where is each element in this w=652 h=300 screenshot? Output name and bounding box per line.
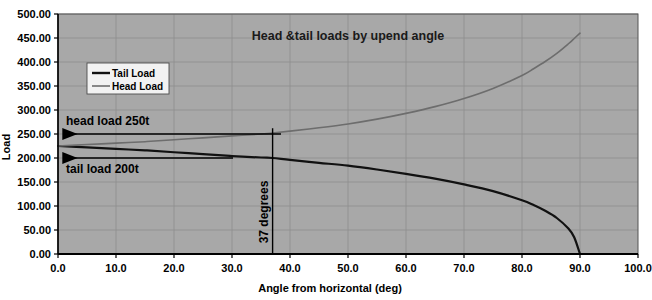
x-tick-label: 0.0: [50, 262, 65, 274]
chart-title: Head &tail loads by upend angle: [252, 29, 444, 43]
y-tick-label: 300.00: [17, 104, 51, 116]
chart-container: 37 degrees 0.010.020.030.040.050.060.070…: [0, 0, 652, 300]
y-tick-label: 400.00: [17, 56, 51, 68]
x-tick-label: 100.0: [624, 262, 652, 274]
x-tick-label: 90.0: [569, 262, 590, 274]
y-tick-label: 450.00: [17, 32, 51, 44]
x-tick-label: 80.0: [511, 262, 532, 274]
x-axis-title: Angle from horizontal (deg): [258, 282, 402, 294]
vertical-marker-label: 37 degrees: [257, 180, 271, 243]
x-tick-label: 30.0: [221, 262, 242, 274]
tail-load-annotation-label: tail load 200t: [66, 162, 139, 176]
x-tick-label: 60.0: [395, 262, 416, 274]
y-tick-label: 50.00: [23, 224, 51, 236]
y-tick-label: 500.00: [17, 8, 51, 20]
x-tick-label: 10.0: [105, 262, 126, 274]
x-tick-label: 70.0: [453, 262, 474, 274]
y-tick-label: 200.00: [17, 152, 51, 164]
y-tick-label: 100.00: [17, 200, 51, 212]
y-tick-label: 250.00: [17, 128, 51, 140]
load-vs-angle-chart: 37 degrees 0.010.020.030.040.050.060.070…: [0, 0, 652, 300]
y-tick-label: 350.00: [17, 80, 51, 92]
chart-legend: Tail LoadHead Load: [87, 63, 169, 94]
x-tick-label: 20.0: [163, 262, 184, 274]
x-tick-label: 50.0: [337, 262, 358, 274]
legend-label-head-load: Head Load: [112, 81, 163, 92]
head-load-annotation-label: head load 250t: [66, 114, 149, 128]
y-tick-label: 150.00: [17, 176, 51, 188]
legend-label-tail-load: Tail Load: [112, 68, 155, 79]
y-axis-title: Load: [0, 134, 12, 160]
y-tick-label: 0.00: [30, 248, 51, 260]
x-tick-label: 40.0: [279, 262, 300, 274]
